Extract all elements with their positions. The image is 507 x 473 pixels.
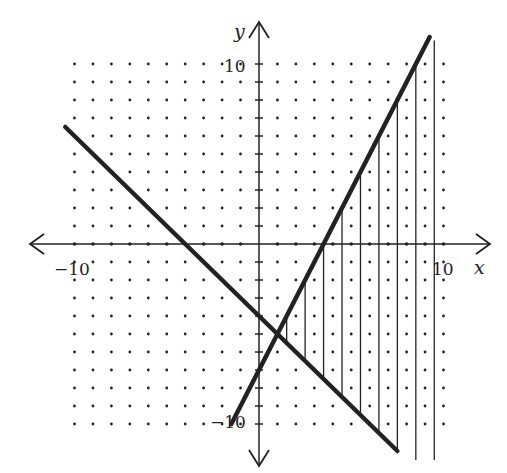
y-axis-label: y	[233, 20, 245, 42]
line-descending	[65, 127, 397, 451]
x-axis	[30, 234, 490, 254]
line-steep	[231, 37, 429, 424]
coordinate-plane: y x 10 −10 −10 10	[0, 0, 507, 473]
x-axis-label: x	[474, 256, 485, 278]
x-min-tick-label: −10	[54, 259, 90, 279]
shaded-region-hatch	[287, 41, 435, 460]
y-max-tick-label: 10	[224, 56, 246, 76]
y-min-tick-label: −10	[210, 412, 246, 432]
x-max-tick-label: 10	[432, 259, 454, 279]
